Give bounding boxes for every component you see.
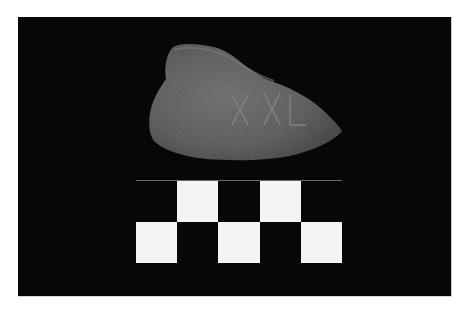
scale-cell: [218, 222, 259, 263]
scale-cell: [136, 222, 177, 263]
scale-cell: [301, 181, 342, 222]
scale-bar: [136, 180, 342, 263]
scale-cell: [260, 222, 301, 263]
scale-cell: [260, 181, 301, 222]
photo-frame: [18, 17, 452, 297]
scale-cell: [136, 181, 177, 222]
scale-cell: [301, 222, 342, 263]
scale-cell: [218, 181, 259, 222]
scale-cell: [177, 181, 218, 222]
scale-cell: [177, 222, 218, 263]
